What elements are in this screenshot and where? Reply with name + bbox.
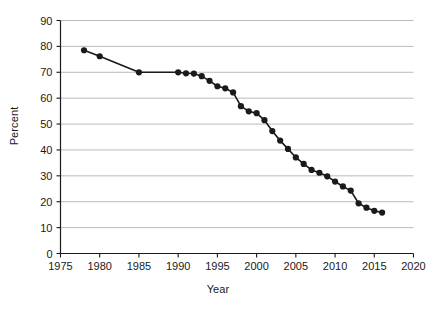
y-tick-label: 80 (40, 40, 52, 52)
y-tick-label: 20 (40, 196, 52, 208)
y-tick-label: 10 (40, 222, 52, 234)
data-point (269, 128, 275, 134)
series-line (84, 50, 382, 212)
data-point (81, 47, 87, 53)
y-axis-title: Percent (8, 96, 20, 156)
data-point (277, 138, 283, 144)
x-tick-label: 1990 (166, 260, 190, 272)
data-point (332, 178, 338, 184)
data-point (175, 69, 181, 75)
y-tick-label: 30 (40, 170, 52, 182)
x-tick-label: 1985 (127, 260, 151, 272)
data-point (230, 89, 236, 95)
x-tick-label: 1995 (205, 260, 229, 272)
x-tick-label: 2000 (244, 260, 268, 272)
data-point (183, 70, 189, 76)
data-point (214, 83, 220, 89)
y-tick-label: 40 (40, 144, 52, 156)
axis-lines (61, 21, 414, 254)
data-point (308, 167, 314, 173)
x-tick-label: 2010 (323, 260, 347, 272)
data-point (301, 161, 307, 167)
data-point (355, 200, 361, 206)
y-axis-ticks: 0102030405060708090 (40, 15, 60, 260)
data-point (285, 146, 291, 152)
data-point (324, 173, 330, 179)
y-tick-label: 0 (46, 248, 52, 260)
data-point (254, 110, 260, 116)
x-tick-label: 2020 (401, 260, 425, 272)
data-point (206, 78, 212, 84)
x-tick-label: 2005 (284, 260, 308, 272)
data-point (371, 208, 377, 214)
data-point (379, 210, 385, 216)
data-point (293, 154, 299, 160)
data-point (222, 85, 228, 91)
data-point (191, 70, 197, 76)
data-point (261, 117, 267, 123)
y-tick-label: 90 (40, 15, 52, 27)
data-point (246, 108, 252, 114)
y-tick-label: 70 (40, 66, 52, 78)
plot-area: 0102030405060708090 19751980198519901995… (0, 0, 436, 312)
data-point (136, 69, 142, 75)
line-chart: Percent Year 0102030405060708090 1975198… (0, 0, 436, 312)
x-axis-ticks: 1975198019851990199520002005201020152020 (48, 254, 425, 272)
x-tick-label: 1975 (48, 260, 72, 272)
data-point (316, 170, 322, 176)
data-point (199, 73, 205, 79)
x-axis-title: Year (0, 283, 436, 295)
gridlines (61, 21, 414, 228)
data-point (340, 183, 346, 189)
y-tick-label: 50 (40, 118, 52, 130)
data-point (97, 53, 103, 59)
data-point (238, 103, 244, 109)
data-point (348, 187, 354, 193)
x-tick-label: 2015 (362, 260, 386, 272)
x-tick-label: 1980 (87, 260, 111, 272)
y-tick-label: 60 (40, 92, 52, 104)
data-point (363, 205, 369, 211)
